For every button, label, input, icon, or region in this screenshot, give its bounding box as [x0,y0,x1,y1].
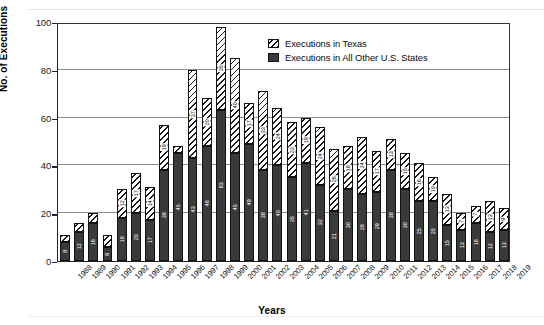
bar-2014[interactable]: 1025 [428,177,438,261]
bar-2016[interactable]: 713 [456,213,466,261]
bar-segment-texas-1991[interactable]: 5 [103,235,113,247]
bar-segment-texas-2005[interactable]: 19 [301,118,311,163]
bar-1998[interactable]: 2048 [202,98,212,261]
bar-1988[interactable]: 38 [60,235,70,261]
bar-segment-other-1995[interactable]: 38 [159,170,169,261]
bar-2008[interactable]: 1830 [343,146,353,261]
bar-2017[interactable]: 716 [471,206,481,261]
bar-segment-other-2002[interactable]: 38 [258,170,268,261]
bar-2005[interactable]: 1941 [301,118,311,261]
bar-segment-other-1989[interactable]: 12 [74,232,84,261]
bar-value-texas-2007: 26 [331,176,338,184]
bar-segment-other-2009[interactable]: 28 [357,194,367,261]
bar-1990[interactable]: 416 [88,213,98,261]
bar-segment-other-2010[interactable]: 29 [372,192,382,261]
bar-segment-texas-2016[interactable]: 7 [456,213,466,230]
bar-segment-other-2013[interactable]: 25 [414,201,424,261]
bar-segment-other-1998[interactable]: 48 [202,146,212,261]
bar-segment-texas-2014[interactable]: 10 [428,177,438,201]
bar-2001[interactable]: 1749 [244,103,254,261]
bar-segment-other-2015[interactable]: 15 [442,225,452,261]
bar-2000[interactable]: 4045 [230,58,240,261]
bar-2010[interactable]: 1729 [372,151,382,261]
bar-segment-other-2019[interactable]: 13 [499,230,509,261]
bar-segment-texas-1992[interactable]: 12 [117,189,127,218]
bar-segment-other-2012[interactable]: 30 [400,189,410,261]
bar-segment-other-1996[interactable]: 45 [173,153,183,261]
bar-2012[interactable]: 1530 [400,153,410,261]
bar-segment-texas-2007[interactable]: 26 [329,149,339,211]
bar-segment-other-2004[interactable]: 35 [287,177,297,261]
bar-segment-texas-2013[interactable]: 16 [414,163,424,201]
bar-segment-texas-2008[interactable]: 18 [343,146,353,189]
bar-1996[interactable]: 345 [173,146,183,261]
bar-segment-other-2018[interactable]: 12 [485,232,495,261]
bar-segment-other-1999[interactable]: 63 [216,110,226,261]
bar-segment-texas-2003[interactable]: 24 [272,108,282,165]
bar-2018[interactable]: 1312 [485,201,495,261]
bar-1989[interactable]: 412 [74,223,84,261]
bar-segment-other-1997[interactable]: 43 [188,158,198,261]
bar-segment-texas-1994[interactable]: 14 [145,187,155,220]
bar-segment-other-1994[interactable]: 17 [145,220,155,261]
bar-segment-texas-1995[interactable]: 19 [159,125,169,170]
bar-segment-texas-2019[interactable]: 9 [499,208,509,230]
bar-segment-other-2005[interactable]: 41 [301,163,311,261]
bar-segment-texas-2012[interactable]: 15 [400,153,410,189]
bar-segment-other-2000[interactable]: 45 [230,153,240,261]
bar-2013[interactable]: 1625 [414,163,424,261]
bar-segment-texas-2009[interactable]: 24 [357,137,367,194]
bar-segment-texas-1999[interactable]: 35 [216,27,226,111]
bar-value-other-2009: 28 [359,224,366,232]
bar-segment-texas-1988[interactable]: 3 [60,235,70,242]
x-axis-title: Years [0,305,544,316]
bar-segment-texas-1993[interactable]: 17 [131,173,141,214]
bar-segment-texas-2018[interactable]: 13 [485,201,495,232]
bar-2002[interactable]: 3338 [258,91,268,261]
bar-segment-other-1992[interactable]: 18 [117,218,127,261]
bar-segment-other-1988[interactable]: 8 [60,242,70,261]
bar-segment-texas-2002[interactable]: 33 [258,91,268,170]
bar-2007[interactable]: 2621 [329,149,339,261]
bar-1993[interactable]: 1720 [131,173,141,261]
bar-segment-other-2003[interactable]: 40 [272,165,282,261]
bar-segment-other-2011[interactable]: 38 [386,170,396,261]
bar-segment-texas-1996[interactable]: 3 [173,146,183,153]
bar-segment-texas-2010[interactable]: 17 [372,151,382,192]
bar-segment-texas-1989[interactable]: 4 [74,223,84,233]
bar-segment-other-2017[interactable]: 16 [471,223,481,261]
bar-value-texas-2009: 24 [359,162,366,170]
bar-segment-texas-2004[interactable]: 23 [287,122,297,177]
bar-segment-other-2008[interactable]: 30 [343,189,353,261]
bar-1999[interactable]: 3563 [216,27,226,261]
bar-segment-other-2007[interactable]: 21 [329,211,339,261]
bar-1994[interactable]: 1417 [145,187,155,261]
bar-segment-other-1993[interactable]: 20 [131,213,141,261]
bar-segment-texas-1990[interactable]: 4 [88,213,98,223]
bar-2019[interactable]: 913 [499,208,509,261]
bar-2003[interactable]: 2440 [272,108,282,261]
bar-segment-other-2014[interactable]: 25 [428,201,438,261]
bar-2009[interactable]: 2428 [357,137,367,261]
bar-segment-texas-1997[interactable]: 37 [188,70,198,158]
bar-segment-other-1990[interactable]: 16 [88,223,98,261]
bar-2011[interactable]: 1338 [386,139,396,261]
bar-1991[interactable]: 56 [103,235,113,261]
bar-segment-texas-2017[interactable]: 7 [471,206,481,223]
bar-segment-other-2016[interactable]: 13 [456,230,466,261]
bar-2006[interactable]: 2432 [315,127,325,261]
bar-segment-other-1991[interactable]: 6 [103,247,113,261]
bar-segment-texas-2015[interactable]: 13 [442,194,452,225]
bar-2004[interactable]: 2335 [287,122,297,261]
bar-1992[interactable]: 1218 [117,189,127,261]
bar-2015[interactable]: 1315 [442,194,452,261]
bar-1995[interactable]: 1938 [159,125,169,261]
bar-segment-other-2006[interactable]: 32 [315,185,325,261]
bar-segment-other-2001[interactable]: 49 [244,144,254,261]
bar-1997[interactable]: 3743 [188,70,198,261]
bar-segment-texas-2006[interactable]: 24 [315,127,325,184]
bar-segment-texas-2011[interactable]: 13 [386,139,396,170]
bar-segment-texas-2001[interactable]: 17 [244,103,254,144]
bar-segment-texas-1998[interactable]: 20 [202,98,212,146]
bar-segment-texas-2000[interactable]: 40 [230,58,240,154]
